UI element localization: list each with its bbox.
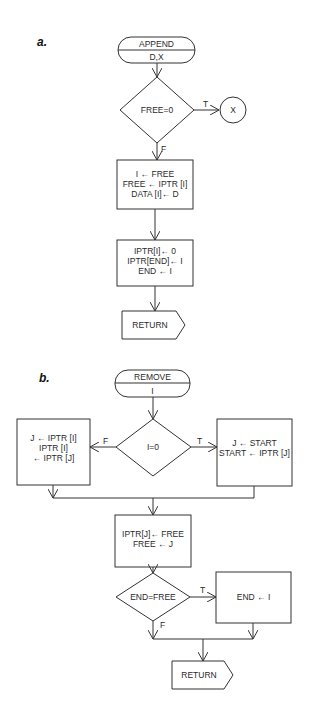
process-line: IPTR[I]← 0 bbox=[134, 246, 176, 256]
process-box-link: IPTR[I]← 0 IPTR[END]← I END ← I bbox=[117, 240, 193, 286]
process-line: FREE ← J bbox=[133, 539, 173, 549]
decision-end-free: END=FREE bbox=[116, 573, 190, 621]
process-line: END ← I bbox=[138, 266, 172, 276]
decision-i-zero: I=0 bbox=[116, 419, 191, 476]
process-line: DATA [I]← D bbox=[131, 189, 178, 199]
process-line: IPTR [I] bbox=[39, 443, 68, 453]
process-box-free: IPTR[J]← FREE FREE ← J bbox=[115, 515, 191, 567]
diagram-a: a. APPEND D,X FREE=0 T X F I ← FREE FREE… bbox=[37, 35, 246, 339]
decision-free-zero-text: FREE=0 bbox=[141, 105, 174, 115]
process-box-allocate: I ← FREE FREE ← IPTR [I] DATA [I]← D bbox=[117, 160, 193, 209]
remove-terminator: REMOVE I bbox=[115, 370, 190, 397]
process-line: IPTR[END]← I bbox=[127, 256, 182, 266]
process-line: ← IPTR [J] bbox=[33, 453, 75, 463]
false-label-b2: F bbox=[160, 620, 165, 630]
process-line: START ← IPTR [J] bbox=[219, 448, 290, 458]
diagram-b-label: b. bbox=[39, 371, 50, 385]
process-line: J ← IPTR [I] bbox=[30, 433, 76, 443]
flowchart-canvas: a. APPEND D,X FREE=0 T X F I ← FREE FREE… bbox=[0, 0, 310, 712]
return-text-b: RETURN bbox=[181, 670, 216, 680]
remove-params: I bbox=[151, 386, 153, 396]
process-line: I ← FREE bbox=[136, 169, 175, 179]
append-title: APPEND bbox=[139, 39, 174, 49]
process-line: IPTR[J]← FREE bbox=[122, 529, 184, 539]
process-box-false: J ← IPTR [I] IPTR [I] ← IPTR [J] bbox=[17, 419, 90, 485]
connector-x-text: X bbox=[230, 105, 236, 115]
process-box-end: END ← I bbox=[216, 572, 291, 623]
decision-free-zero: FREE=0 bbox=[120, 77, 194, 143]
append-params: D,X bbox=[149, 52, 164, 62]
process-line: J ← START bbox=[232, 438, 277, 448]
true-label-b2: T bbox=[200, 585, 205, 595]
diagram-b: b. REMOVE I I=0 F J ← IPTR [I] IPTR [I] … bbox=[17, 370, 292, 689]
return-terminal-b: RETURN bbox=[172, 661, 233, 689]
true-label-a: T bbox=[203, 99, 208, 109]
remove-title: REMOVE bbox=[134, 372, 171, 382]
connector-x: X bbox=[220, 97, 246, 123]
decision-i-zero-text: I=0 bbox=[147, 442, 159, 452]
return-text-a: RETURN bbox=[132, 320, 167, 330]
process-line: END ← I bbox=[237, 592, 271, 602]
false-label-a: F bbox=[161, 144, 166, 154]
append-terminator: APPEND D,X bbox=[118, 37, 195, 63]
return-terminal-a: RETURN bbox=[122, 311, 185, 339]
process-box-true: J ← START START ← IPTR [J] bbox=[217, 419, 292, 486]
process-line: FREE ← IPTR [I] bbox=[123, 179, 188, 189]
true-label-b1: T bbox=[197, 436, 202, 446]
false-label-b1: F bbox=[103, 436, 108, 446]
decision-end-free-text: END=FREE bbox=[130, 592, 176, 602]
diagram-a-label: a. bbox=[37, 35, 47, 49]
